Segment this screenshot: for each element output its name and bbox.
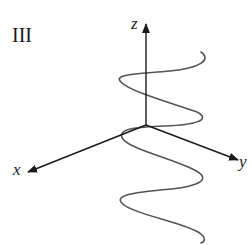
wave-curve: [119, 52, 205, 243]
panel-label: III: [12, 24, 32, 47]
y-axis: [146, 125, 238, 160]
figure-3d-wave: III z x y: [0, 0, 251, 245]
diagram-canvas: [0, 0, 251, 245]
y-axis-label: y: [239, 152, 247, 172]
z-axis-label: z: [131, 14, 138, 34]
x-axis-label: x: [13, 160, 21, 180]
x-axis: [28, 125, 146, 172]
